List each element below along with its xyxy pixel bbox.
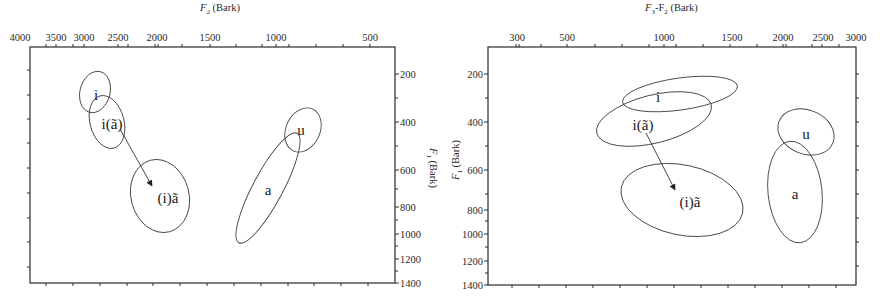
- svg-text:2500: 2500: [108, 32, 129, 43]
- svg-text:1500: 1500: [722, 32, 743, 43]
- right-vowel-labels: i i(ã) (i)ã u a: [633, 89, 811, 211]
- svg-text:3000: 3000: [846, 32, 867, 43]
- svg-text:1400: 1400: [462, 280, 483, 291]
- svg-text:(i)ã: (i)ã: [680, 194, 701, 211]
- svg-text:600: 600: [400, 165, 416, 176]
- left-shift-arrow: [120, 129, 152, 186]
- svg-text:i(ã): i(ã): [633, 117, 654, 134]
- svg-text:200: 200: [400, 69, 416, 80]
- svg-text:800: 800: [467, 205, 483, 216]
- ellipse-i-a: [591, 81, 717, 156]
- svg-text:500: 500: [362, 32, 378, 43]
- svg-text:400: 400: [467, 117, 483, 128]
- right-shift-arrow: [646, 133, 675, 190]
- svg-text:u: u: [802, 126, 810, 142]
- svg-text:i: i: [94, 87, 98, 103]
- svg-text:1200: 1200: [400, 254, 421, 265]
- svg-text:1500: 1500: [200, 32, 221, 43]
- svg-text:4000: 4000: [10, 32, 31, 43]
- svg-text:800: 800: [400, 202, 416, 213]
- svg-text:a: a: [792, 186, 799, 202]
- svg-text:400: 400: [400, 117, 416, 128]
- svg-text:1000: 1000: [400, 229, 421, 240]
- figure: F2 (Bark) 4000 3500 3000 2500 2000 1500 …: [0, 0, 880, 307]
- svg-text:2000: 2000: [773, 32, 794, 43]
- svg-text:1200: 1200: [462, 256, 483, 267]
- svg-text:500: 500: [559, 32, 575, 43]
- svg-text:1400: 1400: [400, 278, 421, 289]
- left-x-tick-labels: 4000 3500 3000 2500 2000 1500 1000 500: [10, 32, 378, 43]
- right-ellipses: [591, 70, 841, 247]
- left-plot-frame: [30, 47, 395, 283]
- ellipse-i: [620, 70, 739, 118]
- right-x-tick-labels: 300 500 1000 1500 2000 2500 3000: [509, 32, 866, 43]
- svg-text:1000: 1000: [462, 229, 483, 240]
- right-x-axis-title: F3-F2 (Bark): [644, 2, 698, 16]
- left-y-tick-labels: 200 400 600 800 1000 1200 1400: [400, 69, 421, 289]
- right-chart: F3-F2 (Bark) 300 500 1000 1500 2000 2500…: [450, 2, 867, 291]
- svg-text:300: 300: [509, 32, 525, 43]
- left-ellipses: [75, 68, 328, 250]
- svg-text:3500: 3500: [46, 32, 67, 43]
- svg-text:2500: 2500: [813, 32, 834, 43]
- left-vowel-labels: i i(ã) (i)ã u a: [94, 87, 305, 207]
- svg-text:u: u: [297, 122, 305, 138]
- svg-text:200: 200: [467, 69, 483, 80]
- svg-text:(i)ã: (i)ã: [158, 190, 179, 207]
- right-y-tick-labels: 200 400 600 800 1000 1200 1400: [462, 69, 483, 291]
- svg-text:1000: 1000: [654, 32, 675, 43]
- svg-text:600: 600: [467, 165, 483, 176]
- svg-text:i: i: [656, 89, 660, 105]
- right-y-axis-title: F1 (Bark): [450, 140, 464, 181]
- left-x-axis-title: F2 (Bark): [199, 2, 240, 16]
- left-chart: F2 (Bark) 4000 3500 3000 2500 2000 1500 …: [10, 2, 440, 289]
- svg-text:a: a: [265, 182, 272, 198]
- right-plot-frame: [488, 47, 856, 285]
- svg-text:3000: 3000: [74, 32, 95, 43]
- svg-text:2000: 2000: [147, 32, 168, 43]
- left-y-axis-title: F1 (Bark): [425, 147, 439, 188]
- svg-text:1000: 1000: [266, 32, 287, 43]
- svg-text:i(ã): i(ã): [102, 116, 123, 133]
